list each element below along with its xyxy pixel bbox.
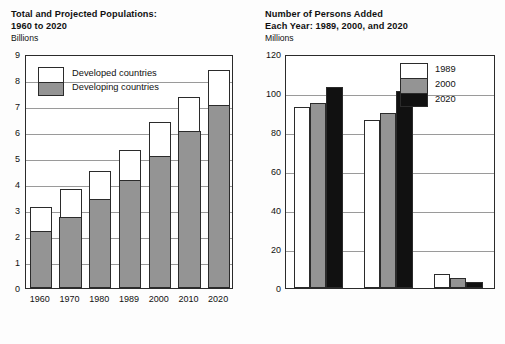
y-axis-tick-label: 9 [15, 51, 20, 60]
bar-1989 [294, 107, 310, 288]
y-axis-tick-label: 8 [15, 77, 20, 86]
gridline [26, 134, 232, 135]
bar-stacked [60, 189, 82, 288]
bar-stacked [89, 171, 111, 288]
right-legend-label-2020: 2020 [435, 94, 456, 105]
bar-segment-developing [30, 231, 52, 288]
y-axis-tick-label: 5 [15, 155, 20, 164]
right-plot-area [285, 55, 495, 289]
x-axis-tick-label: 1960 [25, 294, 55, 305]
bar-2020 [326, 87, 342, 288]
legend-swatch-1989 [401, 64, 427, 78]
bar-stacked [208, 70, 230, 288]
bar-2000 [380, 113, 396, 289]
bar-2000 [450, 278, 466, 288]
bar-stacked [119, 150, 141, 288]
x-axis-tick-label: 1970 [55, 294, 85, 305]
right-legend-label-1989: 1989 [435, 64, 456, 75]
legend-swatch-developing [39, 82, 63, 95]
right-chart-title-block: Number of Persons Added Each Year: 1989,… [265, 9, 505, 44]
left-legend-label-developed: Developed countries [72, 68, 157, 79]
y-axis-tick-label: 3 [15, 207, 20, 216]
bar-2000 [310, 103, 326, 288]
y-axis-tick-label: 120 [266, 51, 281, 60]
bar-segment-developing [119, 180, 141, 288]
bar-segment-developing [59, 217, 81, 288]
y-axis-tick-label: 4 [15, 181, 20, 190]
y-axis-tick-label: 2 [15, 233, 20, 242]
left-chart-title-block: Total and Projected Populations: 1960 to… [11, 9, 264, 44]
right-legend-label-2000: 2000 [435, 79, 456, 90]
y-axis-tick-label: 7 [15, 103, 20, 112]
gridline [286, 95, 494, 96]
bar-segment-developing [89, 199, 111, 289]
bar-stacked [30, 207, 52, 288]
bar-1989 [434, 274, 450, 288]
left-chart-title-line1: Total and Projected Populations: [11, 9, 264, 21]
left-legend-swatches [38, 67, 64, 96]
right-chart-y-axis-unit: Millions [265, 33, 505, 44]
bar-2020 [396, 91, 412, 288]
y-axis-tick-label: 20 [271, 246, 281, 255]
left-chart-y-axis-unit: Billions [11, 33, 264, 44]
gridline [26, 108, 232, 109]
left-legend-label-developing: Developing countries [72, 82, 159, 93]
left-chart-title-line2: 1960 to 2020 [11, 21, 264, 33]
y-axis-tick-label: 6 [15, 129, 20, 138]
figure-canvas: Total and Projected Populations: 1960 to… [0, 0, 505, 344]
y-axis-tick-label: 1 [15, 259, 20, 268]
bar-segment-developing [208, 105, 230, 288]
right-legend-swatches [400, 63, 428, 107]
right-chart-title-line2: Each Year: 1989, 2000, and 2020 [265, 21, 505, 33]
y-axis-tick-label: 100 [266, 90, 281, 99]
bar-segment-developing [178, 131, 200, 288]
legend-swatch-2000 [401, 78, 427, 93]
chart-panel-populations: Total and Projected Populations: 1960 to… [0, 0, 253, 344]
y-axis-tick-label: 0 [15, 285, 20, 294]
bar-1989 [364, 120, 380, 288]
legend-swatch-2020 [401, 93, 427, 106]
bar-stacked [178, 97, 200, 288]
chart-panel-persons-added: Number of Persons Added Each Year: 1989,… [253, 0, 505, 344]
bar-segment-developing [149, 156, 171, 289]
x-axis-tick-label: 2000 [144, 294, 174, 305]
x-axis-tick-label: 1980 [84, 294, 114, 305]
legend-swatch-developed [39, 68, 63, 82]
y-axis-tick-label: 60 [271, 168, 281, 177]
x-axis-tick-label: 1989 [114, 294, 144, 305]
right-chart-title-line1: Number of Persons Added [265, 9, 505, 21]
bar-stacked [149, 122, 171, 288]
bar-2020 [466, 282, 482, 288]
x-axis-tick-label: 2010 [174, 294, 204, 305]
x-axis-tick-label: 2020 [203, 294, 233, 305]
y-axis-tick-label: 80 [271, 129, 281, 138]
y-axis-tick-label: 0 [276, 285, 281, 294]
y-axis-tick-label: 40 [271, 207, 281, 216]
